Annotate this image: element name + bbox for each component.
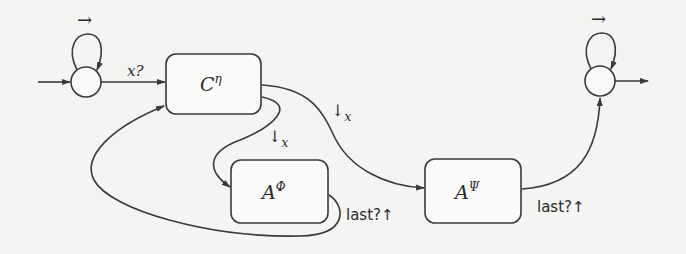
initial-state: → xyxy=(38,9,101,97)
a-phi-base: A xyxy=(260,181,276,203)
box-a-psi: AΨ xyxy=(425,159,521,223)
box-a-phi: AΦ xyxy=(231,160,328,223)
initial-self-loop xyxy=(72,34,101,70)
automaton-diagram: → x? Cη ↓x ↓x AΦ last?↑ xyxy=(0,0,686,254)
final-self-loop xyxy=(586,33,615,69)
edge-label-last-up-1: last?↑ xyxy=(346,206,394,224)
svg-text:↓x: ↓x xyxy=(268,127,288,150)
edge-init-to-c: x? xyxy=(101,62,165,82)
edge-label-x-query: x? xyxy=(127,62,144,80)
c-to-aphi-sub: x xyxy=(281,136,288,150)
initial-state-circle xyxy=(71,67,101,97)
edge-label-last-up-2: last?↑ xyxy=(537,198,585,216)
box-c-eta: Cη xyxy=(166,54,261,114)
final-state-circle xyxy=(585,66,615,96)
c-eta-sup: η xyxy=(215,72,223,86)
c-to-aphi-arrow: ↓ xyxy=(268,127,281,146)
svg-text:↓x: ↓x xyxy=(331,101,351,124)
final-loop-label: → xyxy=(591,8,606,29)
a-psi-base: A xyxy=(453,181,469,203)
c-eta-base: C xyxy=(200,73,215,95)
c-to-apsi-arrow: ↓ xyxy=(331,101,344,120)
final-state: → xyxy=(585,8,648,96)
a-phi-sup: Φ xyxy=(276,180,286,194)
c-to-apsi-sub: x xyxy=(344,110,351,124)
a-psi-sup: Ψ xyxy=(469,180,480,194)
edge-apsi-to-final: last?↑ xyxy=(522,98,600,216)
initial-loop-label: → xyxy=(77,9,92,30)
